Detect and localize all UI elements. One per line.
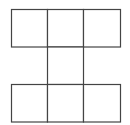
grid-square-r2-c0: [12, 85, 48, 123]
grid-square-r0-c2: [84, 10, 121, 48]
grid-square-r0-c1: [48, 10, 84, 48]
square-grid-diagram: [0, 0, 130, 125]
grid-square-r2-c2: [84, 85, 121, 123]
grid-square-r1-c1: [48, 47, 84, 85]
grid-square-r2-c1: [48, 85, 84, 123]
grid-square-r0-c0: [12, 10, 48, 48]
